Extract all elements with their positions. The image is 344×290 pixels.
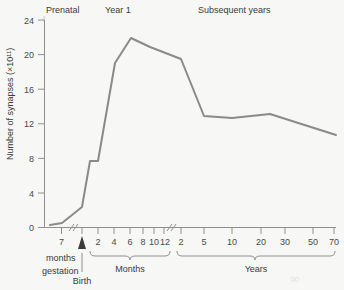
x-axis-title-gestation-line1: months (46, 253, 76, 263)
y-axis-title: Number of synapses (×10¹¹) (5, 48, 15, 160)
x-tick-label-year-30: 30 (280, 237, 290, 247)
x-tick-label-month-2: 2 (95, 237, 100, 247)
y-tick-label-16: 16 (24, 85, 34, 95)
birth-label: Birth (73, 276, 92, 286)
period-label-prenatal: Prenatal (46, 5, 80, 15)
x-tick-label-year-70: 70 (329, 237, 339, 247)
synapse-density-chart: Prenatal Year 1 Subsequent years 0 4 8 1… (0, 0, 344, 290)
x-tick-label-month-6: 6 (127, 237, 132, 247)
x-tick-label-month-10: 10 (149, 237, 159, 247)
x-tick-label-year-2: 2 (178, 237, 183, 247)
y-tick-label-4: 4 (29, 189, 34, 199)
x-tick-label-year-5: 5 (201, 237, 206, 247)
x-axis-title-years: Years (245, 264, 268, 274)
chart-background (0, 0, 344, 290)
x-tick-label-year-10: 10 (227, 237, 237, 247)
y-tick-label-20: 20 (24, 50, 34, 60)
x-tick-label-year-20: 20 (256, 237, 266, 247)
period-label-year-1: Year 1 (105, 5, 131, 15)
x-tick-label-gestation-7: 7 (59, 237, 64, 247)
y-tick-label-8: 8 (29, 154, 34, 164)
y-tick-label-0: 0 (29, 223, 34, 233)
x-tick-label-year-50: 50 (308, 237, 318, 247)
x-tick-label-month-12: 12 (160, 237, 170, 247)
x-axis-title-months: Months (115, 264, 145, 274)
x-axis-title-gestation-line2: gestation (42, 266, 79, 276)
x-tick-label-month-4: 4 (111, 237, 116, 247)
y-tick-label-24: 24 (24, 16, 34, 26)
chart-svg: Prenatal Year 1 Subsequent years 0 4 8 1… (0, 0, 344, 290)
y-tick-label-12: 12 (24, 119, 34, 129)
x-tick-label-month-8: 8 (140, 237, 145, 247)
watermark-artifact: ∞ (290, 271, 299, 286)
period-label-subsequent-years: Subsequent years (198, 5, 271, 15)
